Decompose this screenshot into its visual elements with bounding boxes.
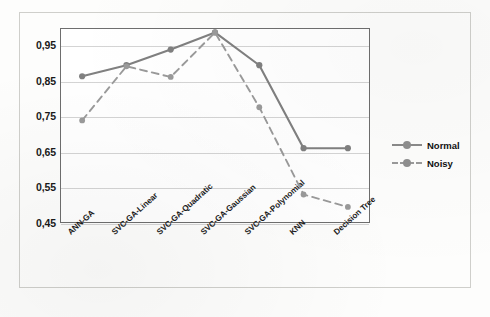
data-point-noisy-4	[256, 104, 262, 110]
data-point-normal-2	[168, 46, 174, 52]
legend-item-normal[interactable]: Normal	[392, 136, 472, 154]
data-point-normal-6	[345, 145, 351, 151]
series-line-noisy	[82, 32, 348, 207]
chart-figure: 0,950,850,750,650,550,45 ANN-GASVC-GA-Li…	[0, 0, 490, 317]
legend-swatch-noisy	[392, 157, 422, 169]
legend-label-noisy: Noisy	[422, 158, 453, 169]
data-point-normal-0	[79, 73, 85, 79]
legend-label-normal: Normal	[422, 140, 460, 151]
data-point-normal-5	[300, 145, 306, 151]
data-point-noisy-1	[124, 63, 130, 69]
legend-item-noisy[interactable]: Noisy	[392, 154, 472, 172]
chart-legend: Normal Noisy	[392, 136, 472, 172]
series-line-normal	[82, 32, 348, 148]
data-point-noisy-3	[212, 30, 218, 36]
data-point-normal-4	[256, 62, 262, 68]
data-point-noisy-6	[345, 204, 351, 210]
data-point-noisy-2	[168, 74, 174, 80]
legend-swatch-normal	[392, 139, 422, 151]
data-point-noisy-0	[79, 118, 85, 124]
data-point-noisy-5	[301, 192, 307, 198]
